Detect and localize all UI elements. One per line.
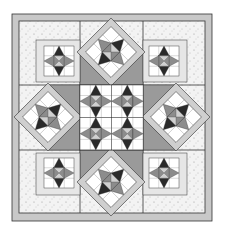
corner-block-top-left <box>36 40 80 82</box>
quilt-illustration <box>0 0 227 232</box>
center-medallion <box>80 85 143 150</box>
corner-block-bottom-left <box>36 153 80 195</box>
corner-block-top-right <box>143 40 187 82</box>
corner-block-bottom-right <box>143 153 187 195</box>
